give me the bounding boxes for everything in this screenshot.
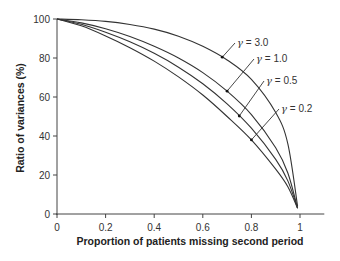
annotation-label: γ = 0.2 [281, 103, 313, 114]
y-tick-label: 0 [44, 209, 50, 220]
annotation-leader [251, 109, 279, 140]
annotation-leader [222, 43, 235, 57]
annotation-leader [227, 59, 254, 91]
axes [56, 19, 324, 215]
annotation-label: γ = 0.5 [266, 75, 298, 86]
x-tick-label: 0.4 [147, 222, 161, 233]
x-tick-label: 1 [297, 222, 303, 233]
annotation-dot [226, 90, 229, 93]
annotation-dot [221, 56, 224, 59]
y-tick-label: 40 [39, 131, 51, 142]
x-tick-label: 0 [54, 222, 60, 233]
y-tick-label: 100 [33, 14, 50, 25]
y-tick-label: 60 [39, 92, 51, 103]
annotation-leader [239, 81, 264, 116]
chart: 00.20.40.60.81020406080100 γ = 3.0γ = 1.… [0, 0, 340, 261]
annotation-label: γ = 1.0 [256, 53, 288, 64]
annotation-label: γ = 3.0 [237, 37, 269, 48]
x-tick-label: 0.2 [99, 222, 113, 233]
y-tick-label: 80 [39, 53, 51, 64]
x-axis-title: Proportion of patients missing second pe… [77, 235, 304, 247]
x-tick-label: 0.8 [244, 222, 258, 233]
annotation-dot [250, 139, 253, 142]
x-tick-label: 0.6 [196, 222, 210, 233]
y-axis-title: Ratio of variances (%) [14, 63, 26, 173]
y-tick-label: 20 [39, 170, 51, 181]
annotation-dot [238, 115, 241, 118]
series-annotations: γ = 3.0γ = 1.0γ = 0.5γ = 0.2 [221, 37, 313, 141]
